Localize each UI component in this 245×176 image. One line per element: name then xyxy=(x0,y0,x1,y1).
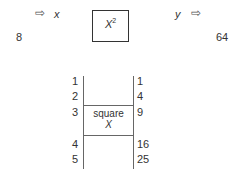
output-row-4: 16 xyxy=(137,138,149,150)
machine-label-line1: square xyxy=(84,108,133,119)
output-value: 64 xyxy=(216,31,228,43)
input-row-5: 5 xyxy=(72,153,78,165)
input-row-4: 4 xyxy=(72,138,78,150)
output-row-2: 4 xyxy=(137,90,143,102)
output-row-1: 1 xyxy=(137,75,143,87)
machine-label: square X xyxy=(84,108,133,130)
output-row-5: 25 xyxy=(137,153,149,165)
output-variable: y xyxy=(175,8,181,20)
input-row-2: 2 xyxy=(72,90,78,102)
function-label: X2 xyxy=(93,17,128,30)
right-rail xyxy=(133,76,134,169)
machine-label-line2: X xyxy=(84,119,133,130)
output-arrow-icon: ⇨ xyxy=(191,7,201,19)
machine-bottom-edge xyxy=(83,135,134,136)
input-row-1: 1 xyxy=(72,75,78,87)
input-row-3: 3 xyxy=(72,106,78,118)
input-arrow-icon: ⇨ xyxy=(35,7,45,19)
input-value: 8 xyxy=(16,31,22,43)
output-row-3: 9 xyxy=(137,106,143,118)
input-variable: x xyxy=(54,8,60,20)
machine-top-edge xyxy=(83,105,134,106)
function-box: X2 xyxy=(92,10,129,42)
